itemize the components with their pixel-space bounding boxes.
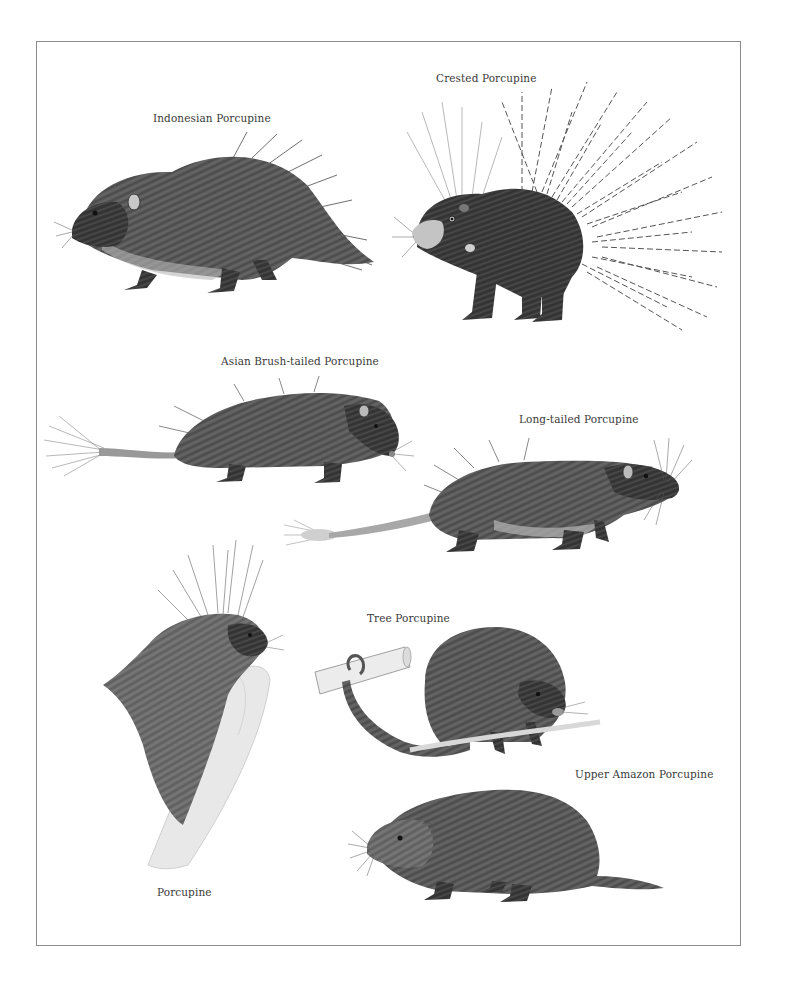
label-asian-brush-tailed-porcupine: Asian Brush-tailed Porcupine [221, 355, 379, 367]
indonesian-porcupine-illustration [62, 130, 382, 300]
label-porcupine: Porcupine [157, 886, 212, 898]
north-american-porcupine-illustration [88, 535, 288, 875]
crested-porcupine-illustration [402, 82, 732, 332]
label-long-tailed-porcupine: Long-tailed Porcupine [519, 413, 639, 425]
upper-amazon-porcupine-illustration [352, 776, 672, 906]
long-tailed-porcupine-illustration [284, 430, 694, 560]
tree-porcupine-illustration [310, 622, 610, 767]
label-indonesian-porcupine: Indonesian Porcupine [153, 112, 271, 124]
